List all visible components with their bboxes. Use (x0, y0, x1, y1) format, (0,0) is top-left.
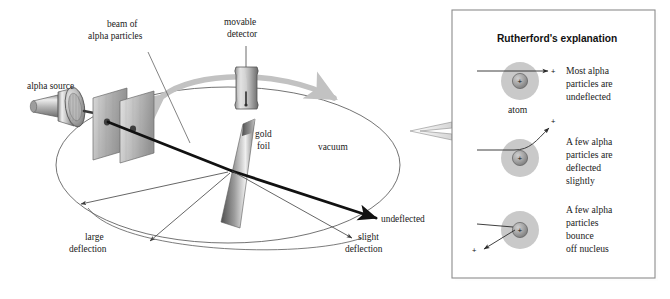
label-large-line2: deflection (69, 244, 107, 254)
caption-1-line-1: Most alpha (566, 65, 610, 76)
label-atom: atom (508, 104, 528, 115)
caption-3-line-3: bounce (566, 230, 594, 241)
label-alpha-source: alpha source (27, 81, 74, 91)
panel-border (452, 10, 655, 278)
figure-root: alpha source beam of alpha particles mov… (0, 0, 670, 299)
label-large-line1: large (85, 232, 104, 242)
label-slight-line1: slight (358, 232, 379, 242)
panel-callout-wedge (410, 122, 452, 140)
apparatus-diagram: alpha source beam of alpha particles mov… (27, 17, 425, 254)
caption-2-line-1: A few alpha (566, 136, 613, 147)
rutherford-experiment-figure: alpha source beam of alpha particles mov… (0, 0, 670, 299)
rutherford-explanation-panel: Rutherford's explanation + + atom Most a… (452, 10, 658, 281)
large-deflection-ray (81, 172, 228, 204)
label-undeflected: undeflected (381, 214, 425, 224)
caption-1-line-2: particles are (566, 78, 613, 89)
caption-2-line-3: deflected (566, 162, 601, 173)
label-vacuum: vacuum (318, 142, 348, 152)
label-gold-line2: foil (257, 141, 270, 151)
nucleus-charge-1: + (517, 77, 522, 86)
caption-3-line-2: particles (566, 217, 599, 228)
label-detector-line2: detector (227, 29, 258, 39)
label-beam-line2: alpha particles (88, 31, 143, 41)
panel-title: Rutherford's explanation (497, 33, 617, 44)
nucleus-charge-2: + (517, 154, 522, 163)
caption-2-line-4: slightly (566, 175, 595, 186)
caption-3-line-4: off nucleus (566, 243, 609, 254)
collimator-plate-2 (120, 91, 154, 163)
caption-1-line-3: undeflected (566, 91, 611, 102)
label-detector-line1: movable (224, 17, 256, 27)
alpha-source (30, 86, 102, 128)
nucleus-charge-3: + (517, 226, 522, 235)
alpha-charge-3: + (472, 246, 477, 255)
label-beam-line1: beam of (107, 19, 138, 29)
alpha-charge-1: + (551, 67, 556, 76)
intermediate-deflection-ray (150, 173, 230, 241)
label-slight-line2: deflection (345, 244, 383, 254)
label-gold-line1: gold (255, 129, 272, 139)
movable-detector (235, 67, 258, 109)
caption-2-line-2: particles are (566, 149, 613, 160)
alpha-charge-2: + (551, 117, 556, 126)
caption-3-line-1: A few alpha (566, 204, 613, 215)
